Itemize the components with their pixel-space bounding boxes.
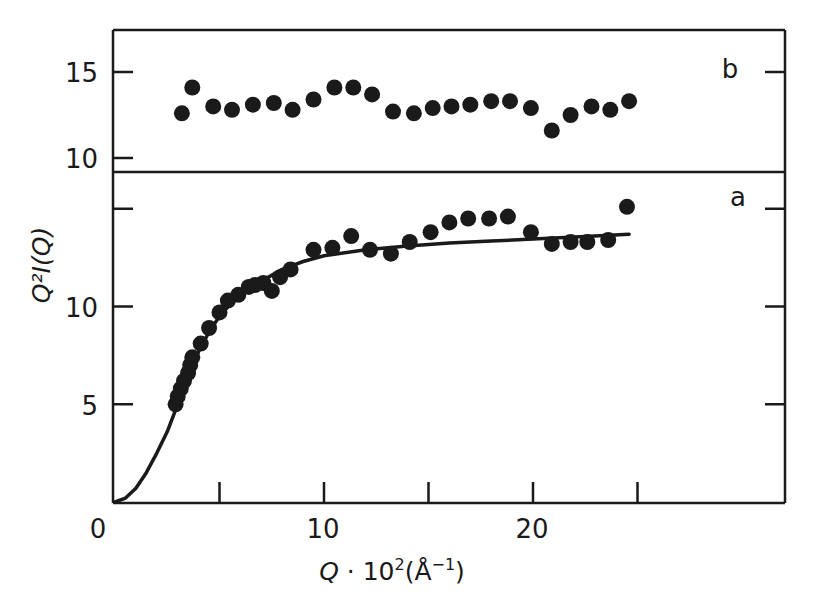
x-axis-label: Q · 102(Å−1) xyxy=(319,555,465,586)
data-point xyxy=(343,228,359,244)
data-point xyxy=(444,98,460,114)
data-point xyxy=(285,102,301,118)
data-point xyxy=(584,98,600,114)
data-point xyxy=(441,214,457,230)
x-tick-label-10: 10 xyxy=(306,514,339,544)
data-point xyxy=(523,224,539,240)
data-point xyxy=(264,283,280,299)
data-point xyxy=(306,242,322,258)
data-point xyxy=(406,105,422,121)
data-point xyxy=(224,102,240,118)
data-point xyxy=(245,97,261,113)
y-axis-label: Q²I(Q) xyxy=(27,227,56,303)
x-axis-label-q: Q xyxy=(319,557,339,586)
data-point xyxy=(362,242,378,258)
data-point xyxy=(193,336,209,352)
chart-figure: 15 10 10 5 0 10 20 b a Q²I(Q) Q · 102(Å−… xyxy=(0,0,814,613)
data-point xyxy=(425,100,441,116)
data-point xyxy=(600,232,616,248)
x-tick-label-0: 0 xyxy=(90,514,107,544)
data-points-panel-b xyxy=(174,80,637,139)
data-point xyxy=(266,95,282,111)
data-point xyxy=(326,80,342,96)
data-point xyxy=(544,123,560,139)
data-point xyxy=(402,234,418,250)
data-point xyxy=(621,93,637,109)
data-point xyxy=(205,98,221,114)
y-tick-label-b-10: 10 xyxy=(65,144,98,174)
data-point xyxy=(364,86,380,102)
data-point xyxy=(544,236,560,252)
x-axis-label-close: ) xyxy=(455,557,465,586)
x-tick-label-20: 20 xyxy=(515,514,548,544)
data-point xyxy=(184,80,200,96)
data-point xyxy=(201,320,217,336)
axis-ticks xyxy=(113,72,785,503)
y-tick-label-b-15: 15 xyxy=(65,58,98,88)
y-tick-label-a-5: 5 xyxy=(81,391,98,421)
data-point xyxy=(563,234,579,250)
data-point xyxy=(462,97,478,113)
data-point xyxy=(483,93,499,109)
data-point xyxy=(602,102,618,118)
data-point xyxy=(345,80,361,96)
x-axis-label-mult: · 10 xyxy=(339,557,395,586)
data-point xyxy=(563,107,579,123)
x-axis-label-exp: 2 xyxy=(394,555,404,574)
data-point xyxy=(184,349,200,365)
panel-label-a: a xyxy=(730,182,746,212)
data-point xyxy=(174,105,190,121)
data-point xyxy=(481,211,497,227)
data-point xyxy=(423,224,439,240)
data-point xyxy=(283,261,299,277)
x-axis-label-unit: (Å xyxy=(405,557,432,586)
data-point xyxy=(502,93,518,109)
data-point xyxy=(460,211,476,227)
data-points-panel-a xyxy=(168,199,635,412)
data-point xyxy=(385,104,401,120)
y-tick-label-a-10: 10 xyxy=(65,293,98,323)
data-point xyxy=(619,199,635,215)
data-point xyxy=(383,246,399,262)
data-point xyxy=(500,209,516,225)
data-point xyxy=(306,92,322,108)
data-point xyxy=(523,100,539,116)
data-point xyxy=(579,234,595,250)
panel-label-b: b xyxy=(722,54,739,84)
data-point xyxy=(324,240,340,256)
x-axis-label-unit-exp: −1 xyxy=(432,555,456,574)
